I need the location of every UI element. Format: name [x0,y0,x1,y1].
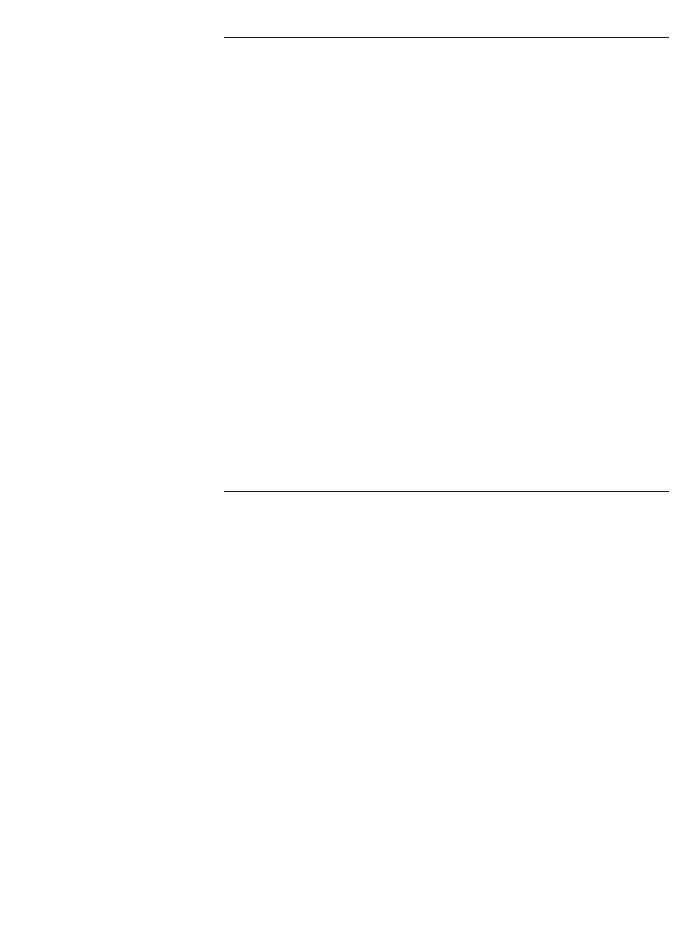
bar-chart-top [0,0,685,488]
x-axis-bottom [224,491,669,492]
bar-chart-bottom [0,480,685,952]
chart-page [0,0,685,952]
x-axis-top [224,37,669,38]
